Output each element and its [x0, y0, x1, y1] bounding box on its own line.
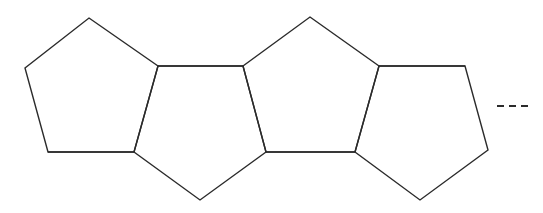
fused-pentagon-diagram: [0, 0, 543, 213]
canvas-background: [0, 0, 543, 213]
figure-container: [0, 0, 543, 213]
